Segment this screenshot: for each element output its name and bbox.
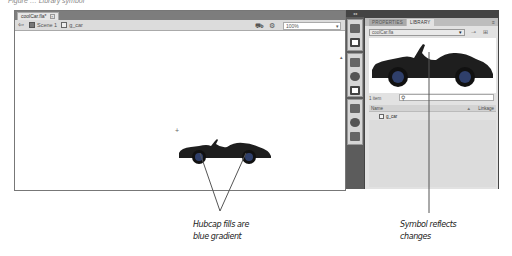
- breadcrumb-scene-label: Scene 1: [37, 22, 57, 28]
- callout-hubcap: Hubcap fills are blue gradient: [193, 219, 249, 243]
- figure-caption: Figure … Library symbol: [8, 0, 84, 4]
- callout-symbol: Symbol reflects changes: [400, 219, 456, 243]
- library-search-input[interactable]: ⚲: [399, 94, 494, 101]
- breadcrumb-symbol-label: g_car: [69, 22, 83, 28]
- breadcrumb-symbol[interactable]: g_car: [61, 22, 83, 28]
- callout-symbol-line-2: changes: [400, 231, 456, 243]
- library-document-label: coolCar.fla: [372, 30, 393, 35]
- library-item[interactable]: g_car: [369, 113, 496, 120]
- movie-explorer-icon[interactable]: [350, 132, 360, 141]
- document-window: coolCar.fla* × ⇦ Scene 1 g_car ⛟ ⚙ 100% …: [14, 10, 346, 191]
- library-item-name: g_car: [386, 113, 397, 120]
- graphic-symbol-icon: [379, 114, 384, 119]
- breadcrumb-scene[interactable]: Scene 1: [29, 22, 57, 28]
- document-tab[interactable]: coolCar.fla* ×: [17, 12, 59, 20]
- scene-icon: [29, 22, 35, 28]
- edit-bar: ⇦ Scene 1 g_car ⛟ ⚙ 100% ▾: [15, 20, 345, 31]
- tab-properties[interactable]: PROPERTIES: [369, 19, 406, 26]
- dock-group-3: [347, 99, 363, 145]
- stage[interactable]: + ▴: [15, 32, 345, 190]
- column-linkage[interactable]: Linkage: [478, 105, 494, 112]
- callout-symbol-line-1: Symbol reflects: [400, 219, 456, 231]
- library-body: coolCar.fla ▾ ⊸ ⊞ 1 item ⚲ Name ▲ Linkag…: [365, 26, 498, 189]
- library-document-select[interactable]: coolCar.fla ▾: [369, 29, 465, 36]
- edit-bar-right: ⛟ ⚙ 100% ▾: [255, 21, 341, 30]
- library-list-header: Name ▲ Linkage: [369, 105, 496, 112]
- back-arrow-icon[interactable]: ⇦: [18, 22, 25, 28]
- callout-hubcap-line-2: blue gradient: [193, 231, 249, 243]
- library-list-area[interactable]: [369, 120, 496, 187]
- item-count: 1 item: [369, 96, 381, 101]
- chevron-down-icon: ▾: [336, 23, 339, 29]
- pin-icon[interactable]: ⊸: [469, 29, 477, 36]
- dock-group-1: [347, 19, 363, 51]
- scroll-up-icon[interactable]: ▴: [340, 54, 343, 60]
- document-tab-label: coolCar.fla*: [21, 13, 47, 20]
- symbol-preview: [369, 38, 496, 93]
- car-symbol-instance[interactable]: [177, 135, 273, 165]
- document-tab-strip: coolCar.fla* ×: [15, 11, 345, 20]
- code-snippets-icon[interactable]: [350, 104, 360, 113]
- swatches-icon[interactable]: [350, 38, 360, 47]
- new-library-panel-icon[interactable]: ⊞: [481, 29, 489, 36]
- panel-menu-icon[interactable]: ≡: [492, 19, 495, 25]
- panel-title-bar[interactable]: [365, 11, 498, 18]
- close-icon[interactable]: ×: [50, 14, 55, 19]
- components-icon[interactable]: [350, 118, 360, 127]
- edit-scene-icon[interactable]: ⛟: [255, 22, 264, 29]
- dock-group-2: [347, 53, 363, 97]
- dock-collapse-button[interactable]: ◂◂: [346, 10, 364, 17]
- graphic-symbol-icon: [61, 22, 67, 28]
- panel-tabs: PROPERTIES LIBRARY ≡: [365, 18, 498, 26]
- color-icon[interactable]: [350, 24, 360, 33]
- callout-hubcap-line-1: Hubcap fills are: [193, 219, 249, 231]
- zoom-level: 100%: [286, 23, 299, 29]
- zoom-select[interactable]: 100% ▾: [283, 22, 341, 30]
- info-icon[interactable]: [350, 72, 360, 81]
- transform-icon[interactable]: [350, 86, 360, 95]
- align-icon[interactable]: [350, 58, 360, 67]
- edit-symbols-icon[interactable]: ⚙: [269, 22, 278, 29]
- search-icon: ⚲: [401, 94, 405, 101]
- column-name[interactable]: Name: [371, 105, 383, 112]
- tab-library[interactable]: LIBRARY: [407, 19, 434, 26]
- car-preview-image: [370, 40, 495, 90]
- sort-icon[interactable]: ▲: [467, 105, 471, 112]
- library-panel: PROPERTIES LIBRARY ≡ coolCar.fla ▾ ⊸ ⊞ 1…: [364, 10, 499, 189]
- chevron-down-icon: ▾: [459, 30, 462, 35]
- panel-dock: ◂◂: [346, 10, 364, 189]
- registration-point-icon: +: [175, 127, 179, 134]
